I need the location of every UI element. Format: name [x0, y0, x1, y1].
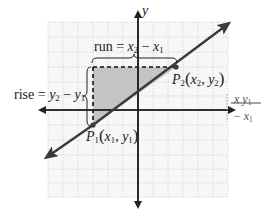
- p2-letter: P: [172, 72, 181, 87]
- run-minus: −: [142, 39, 150, 54]
- fragment-minus: −: [234, 109, 241, 123]
- p1-label: P1(x1, y1): [86, 127, 138, 145]
- fragment-y-sub: 1: [248, 98, 252, 107]
- rise-y2-sub: 2: [55, 93, 59, 103]
- run-label: run = x2 − x1: [94, 40, 164, 55]
- y-axis-label: y: [142, 4, 148, 18]
- fragment-x: x: [234, 92, 239, 106]
- p1-letter: P: [86, 129, 95, 144]
- rise-minus: −: [63, 87, 71, 102]
- run-word: run: [94, 39, 113, 54]
- run-equals: =: [116, 39, 124, 54]
- run-x2-sub: 2: [134, 45, 138, 55]
- rise-equals: =: [38, 87, 46, 102]
- rise-y1-sub: 1: [81, 93, 85, 103]
- p2-x-sub: 2: [197, 78, 201, 88]
- fragment-x1-sub: 1: [249, 115, 253, 124]
- right-fragment-top: x y1: [234, 93, 251, 106]
- right-fragment-bottom: − x1: [234, 110, 253, 123]
- slope-diagram: y run = x2 − x1 rise = y2 − y1 P2(x2, y2…: [0, 0, 276, 211]
- p1-x-sub: 1: [111, 135, 115, 145]
- rise-label: rise = y2 − y1: [14, 88, 85, 103]
- rise-word: rise: [14, 87, 34, 102]
- p2-label: P2(x2, y2): [172, 70, 224, 88]
- run-x1-sub: 1: [159, 45, 163, 55]
- point-p2: [173, 64, 178, 69]
